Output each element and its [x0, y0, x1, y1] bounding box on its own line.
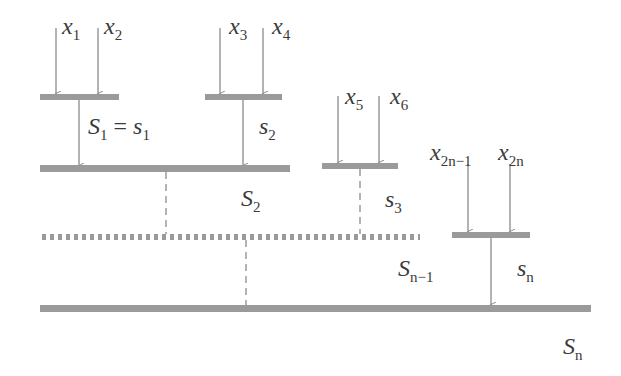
accumulator-bar-S2: [40, 165, 290, 172]
adder-bar-3: [322, 163, 398, 169]
label-x6: x6: [390, 84, 408, 113]
label-S2: S2: [241, 186, 261, 215]
label-sn: sn: [517, 256, 534, 285]
label-S1-eq-s1: S1 = s1: [88, 114, 150, 143]
summation-tree-diagram: [0, 0, 621, 376]
label-x5: x5: [345, 84, 363, 113]
label-x1: x1: [62, 14, 80, 43]
adder-bar-n: [452, 232, 530, 238]
accumulator-bar-Sn: [40, 305, 591, 312]
label-x3: x3: [229, 14, 247, 43]
label-s2: s2: [259, 114, 276, 143]
label-x2: x2: [104, 14, 122, 43]
label-x2n: x2n: [498, 140, 524, 169]
label-s3: s3: [385, 187, 402, 216]
label-x4: x4: [272, 14, 290, 43]
adder-bar-1: [40, 94, 119, 100]
label-Sn: Sn: [563, 334, 583, 363]
label-x2n-1: x2n−1: [430, 140, 472, 169]
label-Sn-1: Sn−1: [398, 256, 433, 285]
adder-bar-2: [205, 94, 282, 100]
